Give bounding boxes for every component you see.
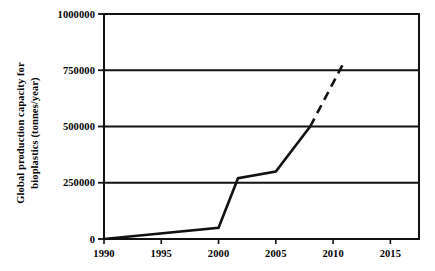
x-tick-label: 2010 [322, 248, 343, 259]
x-tick-label: 1995 [151, 248, 172, 259]
x-tick-label: 1990 [93, 248, 114, 259]
y-tick-label: 1000000 [58, 9, 95, 20]
bioplastics-production-chart: 199019952000200520102015 025000050000075… [0, 0, 435, 271]
chart-canvas: 199019952000200520102015 025000050000075… [0, 0, 435, 271]
y-axis-title-line-2: bioplastics (tonnes/year) [29, 77, 41, 189]
y-tick-label: 750000 [63, 65, 95, 76]
y-axis-tick-labels: 02500005000007500001000000 [58, 9, 95, 245]
x-tick-label: 2000 [208, 248, 229, 259]
y-tick-label: 500000 [63, 121, 95, 132]
x-tick-label: 2005 [265, 248, 286, 259]
x-axis-tick-labels: 199019952000200520102015 [93, 248, 401, 259]
y-tick-label: 0 [90, 234, 95, 245]
y-axis-title: Global production capacity for bioplasti… [15, 62, 41, 204]
x-tick-label: 2015 [380, 248, 401, 259]
y-tick-label: 250000 [63, 177, 95, 188]
y-axis-title-line-1: Global production capacity for [15, 62, 26, 204]
